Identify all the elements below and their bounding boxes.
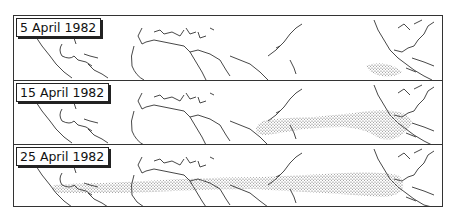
map-panel-2: 15 April 1982 — [14, 80, 442, 145]
map-panel-3: 25 April 1982 — [14, 144, 442, 207]
plume-stipple — [366, 63, 402, 76]
date-label: 25 April 1982 — [16, 147, 109, 166]
date-label: 15 April 1982 — [16, 83, 109, 102]
map-figure: 5 April 1982 15 April 1982 — [13, 15, 443, 207]
plume-stipple — [256, 110, 412, 139]
plume-stipple — [52, 172, 403, 197]
map-panel-1: 5 April 1982 — [14, 16, 442, 80]
date-label: 5 April 1982 — [16, 18, 101, 37]
